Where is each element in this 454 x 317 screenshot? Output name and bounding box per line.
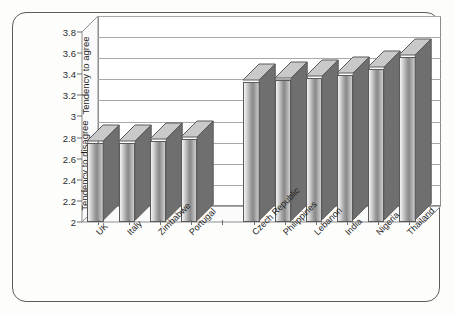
- bar-3d-faces: [87, 125, 121, 222]
- bar-3d-faces: [368, 51, 402, 222]
- y-tick-label: 3.6: [40, 48, 76, 59]
- y-tick-label: 3.4: [40, 69, 76, 80]
- bar-3d-faces: [399, 39, 433, 222]
- y-tick-mark: [77, 222, 82, 223]
- bar: [368, 69, 384, 222]
- y-tick-label: 3.8: [40, 27, 76, 38]
- bar-3d-faces: [337, 57, 371, 222]
- bar: [119, 143, 135, 222]
- gridline: [98, 16, 441, 17]
- y-tick-label: 3: [40, 111, 76, 122]
- bar: [243, 82, 259, 222]
- y-tick-label: 2.8: [40, 132, 76, 143]
- bar: [337, 75, 353, 222]
- x-axis-label: UK: [94, 221, 110, 237]
- y-tick-label: 2.6: [40, 153, 76, 164]
- plot-area: 3.83.63.43.232.82.62.42.22 Tendency to a…: [82, 32, 425, 222]
- y-tick-label: 3.2: [40, 90, 76, 101]
- bar: [87, 143, 103, 222]
- bar-3d-faces: [243, 64, 277, 222]
- y-tick-label: 2: [40, 217, 76, 228]
- x-axis-labels: UKItalyZimbabwePortugalCzech RepublicPhi…: [82, 224, 442, 310]
- x-tick-mark: [222, 220, 223, 225]
- bar-3d-faces: [119, 125, 153, 222]
- y-tick-label: 2.4: [40, 174, 76, 185]
- bar-3d-faces: [306, 60, 340, 222]
- bar: [399, 57, 415, 222]
- y-axis-label-agree: Tendency to agree: [80, 31, 91, 121]
- y-tick-label: 2.2: [40, 195, 76, 206]
- bar: [150, 141, 166, 222]
- chart-figure: 3.83.63.43.232.82.62.42.22 Tendency to a…: [0, 0, 454, 317]
